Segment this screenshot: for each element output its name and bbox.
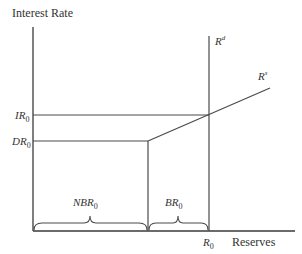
dr0-label: DR0: [11, 135, 31, 150]
nbr0-brace: [34, 216, 147, 230]
supply-curve-label: Rs: [257, 69, 268, 82]
y-axis-label: Interest Rate: [12, 6, 73, 20]
demand-curve-label: Rd: [214, 34, 226, 47]
ir0-label: IR0: [14, 109, 29, 124]
x-axis-label: Reserves: [232, 235, 276, 249]
nbr0-label: NBR0: [72, 196, 98, 211]
br0-label: BR0: [165, 196, 182, 211]
r0-label: R0: [202, 236, 214, 251]
br0-brace: [149, 216, 208, 230]
reserves-market-diagram: Interest Rate Reserves IR0 DR0 Rd Rs R0 …: [0, 0, 302, 254]
